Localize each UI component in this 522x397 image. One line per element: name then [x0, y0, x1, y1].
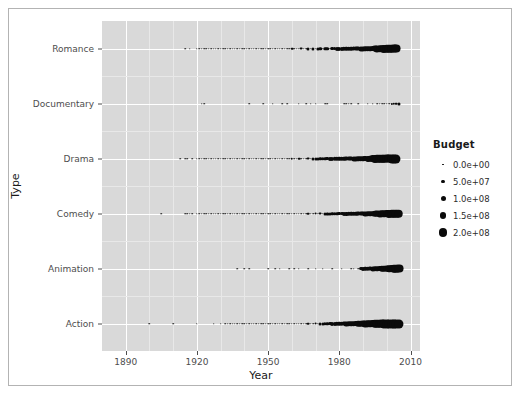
scatter-point [296, 323, 298, 325]
scatter-point [208, 158, 210, 160]
scatter-point [331, 268, 333, 270]
scatter-point [291, 213, 293, 215]
scatter-point [203, 213, 205, 215]
scatter-point [201, 158, 203, 160]
scatter-point [189, 48, 191, 50]
scatter-point [289, 268, 291, 270]
scatter-point [237, 158, 239, 160]
scatter-point [172, 323, 174, 325]
scatter-point [293, 158, 295, 160]
scatter-point [274, 323, 276, 325]
scatter-point [367, 103, 369, 105]
scatter-point [274, 213, 276, 215]
scatter-point [305, 103, 307, 105]
scatter-point [234, 48, 236, 50]
scatter-point [343, 103, 345, 105]
scatter-point [256, 213, 258, 215]
scatter-point [282, 213, 284, 215]
legend-items: 0.0e+005.0e+071.0e+081.5e+082.0e+08 [433, 156, 505, 241]
scatter-point [196, 48, 198, 50]
gridline-minor-horizontal [102, 241, 420, 242]
scatter-point [234, 213, 236, 215]
scatter-point [298, 103, 300, 105]
scatter-point [232, 323, 234, 325]
scatter-point [244, 268, 246, 270]
scatter-point [248, 103, 250, 105]
scatter-point [279, 268, 281, 270]
scatter-point [277, 323, 279, 325]
scatter-point [384, 103, 386, 105]
scatter-point [350, 103, 352, 105]
scatter-point [267, 268, 269, 270]
scatter-point [210, 158, 212, 160]
legend-key [433, 228, 453, 237]
scatter-point [286, 158, 288, 160]
scatter-point [241, 158, 243, 160]
scatter-point [286, 103, 288, 105]
x-tick-mark [339, 351, 340, 355]
figure-frame: RomanceDocumentaryDramaComedyAnimationAc… [8, 8, 512, 386]
scatter-point [239, 158, 241, 160]
scatter-point [215, 48, 217, 50]
scatter-point [241, 48, 243, 50]
scatter-point [377, 103, 379, 105]
legend-label: 1.0e+08 [453, 194, 490, 204]
scatter-point [227, 48, 229, 50]
scatter-point [308, 268, 310, 270]
scatter-point [282, 158, 284, 160]
scatter-point [201, 213, 203, 215]
legend-item: 1.5e+08 [433, 207, 505, 224]
scatter-point [272, 323, 274, 325]
scatter-point [227, 323, 229, 325]
plot-panel [102, 21, 420, 351]
scatter-point [220, 158, 222, 160]
scatter-point [270, 158, 272, 160]
scatter-point [225, 48, 227, 50]
scatter-point [265, 48, 267, 50]
scatter-point [210, 213, 212, 215]
scatter-point [199, 213, 201, 215]
scatter-point [286, 323, 288, 325]
scatter-point [251, 158, 253, 160]
legend-dot [442, 164, 444, 166]
scatter-point [201, 48, 203, 50]
y-tick-label-animation: Animation [48, 264, 94, 274]
scatter-point [215, 213, 217, 215]
scatter-point [225, 213, 227, 215]
scatter-point [267, 323, 269, 325]
scatter-point [196, 158, 198, 160]
scatter-point [232, 213, 234, 215]
scatter-point [279, 323, 281, 325]
scatter-point [232, 158, 234, 160]
scatter-point [298, 268, 300, 270]
scatter-point [218, 158, 220, 160]
scatter-point [392, 154, 401, 163]
scatter-point [398, 158, 400, 160]
scatter-point [327, 103, 329, 105]
scatter-point [161, 213, 163, 215]
legend-item: 2.0e+08 [433, 224, 505, 241]
scatter-point [301, 323, 303, 325]
scatter-point [398, 48, 400, 50]
scatter-point [277, 48, 279, 50]
scatter-point [258, 158, 260, 160]
scatter-point [310, 213, 312, 215]
scatter-point [199, 48, 201, 50]
scatter-point [277, 158, 279, 160]
scatter-point [289, 323, 291, 325]
scatter-point [220, 48, 222, 50]
legend-title: Budget [433, 139, 505, 150]
y-tick-label-drama: Drama [64, 154, 94, 164]
legend-item: 1.0e+08 [433, 190, 505, 207]
scatter-point [263, 158, 265, 160]
scatter-point [310, 103, 312, 105]
scatter-point [381, 103, 383, 105]
scatter-point [284, 48, 286, 50]
scatter-point [149, 323, 151, 325]
scatter-point [232, 48, 234, 50]
scatter-point [394, 319, 403, 328]
scatter-point [222, 213, 224, 215]
scatter-point [196, 213, 198, 215]
scatter-point [239, 213, 241, 215]
legend-label: 1.5e+08 [453, 211, 490, 221]
